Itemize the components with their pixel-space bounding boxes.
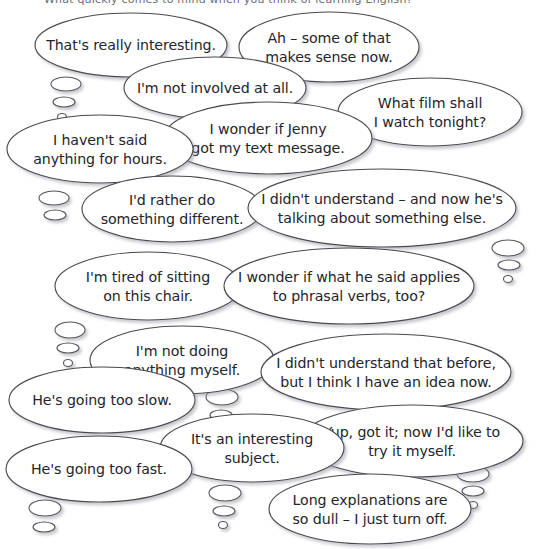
thought-tail-dot: [209, 485, 241, 501]
thought-tail-dot: [29, 500, 61, 516]
bubble-text-line: He's going too slow.: [32, 392, 172, 408]
bubble-text-line: That's really interesting.: [45, 37, 216, 53]
bubble-text-line: He's going too fast.: [31, 461, 167, 477]
bubble-text-line: I'd rather do: [129, 192, 215, 208]
thought-tail-dot: [504, 276, 513, 283]
thought-tail-dot: [51, 77, 81, 91]
bubble-text: He's going too fast.: [31, 461, 167, 477]
bubble-text-line: What film shall: [378, 95, 482, 111]
bubble-text-line: so dull – I just turn off.: [293, 511, 448, 527]
bubble-text-line: Ah – some of that: [267, 30, 391, 46]
thought-bubbles-page: What quickly comes to mind when you thin…: [0, 0, 547, 549]
thought-bubble: Long explanations areso dull – I just tu…: [269, 474, 471, 544]
bubble-text-line: on this chair.: [103, 288, 193, 304]
thought-tail-dot: [462, 486, 484, 496]
bubble-outline: [7, 115, 193, 183]
thought-tail-dot: [64, 360, 73, 367]
thought-tail-dot: [57, 343, 79, 353]
bubbles-svg: That's really interesting.Ah – some of t…: [0, 0, 547, 549]
bubble-outline: [164, 102, 372, 174]
bubble-text-line: I haven't said: [53, 132, 147, 148]
bubble-text-line: I wonder if what he said applies: [238, 269, 460, 285]
bubble-text: He's going too slow.: [32, 392, 172, 408]
bubble-text-line: something different.: [101, 211, 244, 227]
bubble-text-line: I'm not involved at all.: [137, 80, 293, 96]
bubble-outline: [224, 248, 474, 324]
bubble-outline: [269, 474, 471, 544]
thought-tail-dot: [53, 97, 75, 107]
thought-tail-dot: [33, 522, 55, 532]
bubble-outline: [82, 176, 262, 242]
bubble-text-line: makes sense now.: [265, 49, 392, 65]
thought-tail-dot: [213, 506, 235, 516]
bubble-text-line: talking about something else.: [278, 210, 486, 226]
thought-bubble: I'd rather dosomething different.: [82, 176, 262, 242]
thought-bubble: He's going too slow.: [9, 367, 195, 433]
thought-tail-dot: [498, 260, 520, 270]
bubble-text-line: It's an interesting: [191, 431, 313, 447]
bubble-text-line: I didn't understand that before,: [276, 355, 496, 371]
bubbles-canvas: That's really interesting.Ah – some of t…: [0, 0, 547, 549]
bubble-outline: [55, 252, 241, 320]
bubble-text-line: I didn't understand – and now he's: [261, 191, 503, 207]
bubble-outline: [261, 334, 511, 410]
bubble-text-line: I watch tonight?: [374, 114, 487, 130]
bubble-text-line: but I think I have an idea now.: [280, 374, 491, 390]
bubble-text-line: I wonder if Jenny: [209, 121, 326, 137]
bubble-text-line: to phrasal verbs, too?: [273, 288, 425, 304]
thought-tail-dot: [39, 191, 69, 205]
bubble-text-line: Long explanations are: [293, 492, 448, 508]
thought-bubble: I didn't understand that before,but I th…: [261, 334, 511, 410]
thought-bubble: I wonder if Jennygot my text message.: [164, 102, 372, 174]
thought-tail-dot: [55, 322, 85, 338]
bubble-text: That's really interesting.: [45, 37, 216, 53]
thought-bubble: I wonder if what he said appliesto phras…: [224, 248, 474, 324]
bubble-text-line: Yup, got it; now I'd like to: [323, 424, 500, 440]
bubble-text-line: got my text message.: [191, 140, 344, 156]
bubble-text-line: I'm not doing: [136, 343, 229, 359]
thought-tail-dot: [44, 210, 66, 220]
bubble-text-line: I'm tired of sitting: [86, 269, 210, 285]
thought-bubble: He's going too fast.: [6, 436, 192, 532]
bubble-text: I'm not involved at all.: [137, 80, 293, 96]
bubble-text-line: anything for hours.: [33, 151, 167, 167]
bubble-text-line: subject.: [224, 450, 279, 466]
thought-tail-dot: [492, 240, 524, 256]
bubble-outline: [248, 169, 516, 247]
thought-tail-dot: [219, 522, 228, 529]
bubble-text-line: try it myself.: [368, 443, 456, 459]
